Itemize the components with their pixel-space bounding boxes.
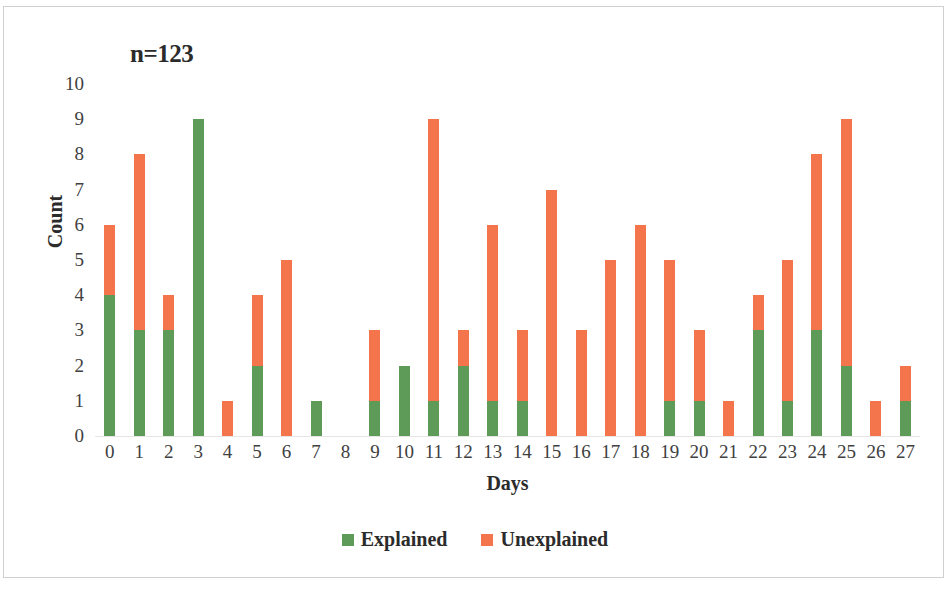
x-axis-tick-label: 25 — [832, 441, 861, 463]
y-axis-tick-label: 5 — [75, 249, 85, 271]
x-axis-tick-label: 24 — [802, 441, 831, 463]
bar-slot — [154, 84, 183, 436]
bar-segment-unexplained — [811, 154, 822, 330]
stacked-bar — [782, 260, 793, 436]
stacked-bar — [163, 295, 174, 436]
bar-segment-explained — [134, 330, 145, 436]
stacked-bar — [193, 119, 204, 436]
bar-segment-unexplained — [635, 225, 646, 436]
stacked-bar — [487, 225, 498, 436]
bar-segment-unexplained — [753, 295, 764, 330]
bar-slot — [891, 84, 920, 436]
bar-segment-explained — [694, 401, 705, 436]
bar-slot — [832, 84, 861, 436]
x-axis-tick-label: 27 — [891, 441, 920, 463]
x-axis-tick-label: 22 — [743, 441, 772, 463]
bar-slot — [449, 84, 478, 436]
x-axis-tick-label: 2 — [154, 441, 183, 463]
bar-slot — [213, 84, 242, 436]
bar-slot — [478, 84, 507, 436]
stacked-bar — [134, 154, 145, 436]
bar-segment-unexplained — [517, 330, 528, 400]
y-axis-tick-label: 7 — [75, 178, 85, 200]
bar-segment-unexplained — [694, 330, 705, 400]
bar-slot — [95, 84, 124, 436]
legend-item: Unexplained — [481, 528, 608, 551]
stacked-bar — [281, 260, 292, 436]
bar-segment-explained — [753, 330, 764, 436]
x-axis-tick-label: 4 — [213, 441, 242, 463]
x-axis-tick-label: 18 — [625, 441, 654, 463]
bar-series-container — [95, 84, 920, 436]
bar-segment-unexplained — [458, 330, 469, 365]
bar-segment-explained — [458, 366, 469, 436]
bar-segment-unexplained — [163, 295, 174, 330]
stacked-bar — [517, 330, 528, 436]
legend-swatch-explained — [342, 534, 354, 546]
bar-segment-unexplained — [841, 119, 852, 365]
x-axis-tick-label: 9 — [360, 441, 389, 463]
bar-segment-explained — [193, 119, 204, 436]
bar-segment-explained — [163, 330, 174, 436]
bar-slot — [743, 84, 772, 436]
bar-segment-explained — [664, 401, 675, 436]
bar-segment-explained — [399, 366, 410, 436]
y-axis-tick-label: 1 — [75, 389, 85, 411]
bar-slot — [684, 84, 713, 436]
x-axis-tick-label: 23 — [773, 441, 802, 463]
bar-slot — [537, 84, 566, 436]
stacked-bar — [753, 295, 764, 436]
stacked-bar — [635, 225, 646, 436]
stacked-bar — [723, 401, 734, 436]
bar-segment-unexplained — [605, 260, 616, 436]
x-axis-tick-label: 16 — [567, 441, 596, 463]
stacked-bar — [605, 260, 616, 436]
bar-slot — [773, 84, 802, 436]
legend-label: Explained — [361, 528, 448, 551]
x-axis-tick-label: 12 — [449, 441, 478, 463]
chart-legend: ExplainedUnexplained — [0, 528, 950, 551]
chart-title: n=123 — [130, 40, 193, 68]
y-axis-tick-label: 10 — [65, 73, 84, 95]
bar-segment-explained — [517, 401, 528, 436]
x-axis-tick-label: 5 — [242, 441, 271, 463]
bar-segment-unexplained — [252, 295, 263, 365]
bar-slot — [242, 84, 271, 436]
legend-label: Unexplained — [500, 528, 608, 551]
bar-segment-unexplained — [369, 330, 380, 400]
stacked-bar — [458, 330, 469, 436]
stacked-bar — [870, 401, 881, 436]
bar-slot — [183, 84, 212, 436]
y-axis-tick-label: 2 — [75, 354, 85, 376]
x-axis-tick-label: 20 — [684, 441, 713, 463]
bar-slot — [508, 84, 537, 436]
x-axis-tick-labels: 0123456789101112131415161718192021222324… — [95, 441, 920, 463]
y-axis-title: Count — [44, 162, 67, 282]
bar-segment-unexplained — [281, 260, 292, 436]
stacked-bar — [900, 366, 911, 436]
bar-slot — [390, 84, 419, 436]
x-axis-tick-label: 1 — [124, 441, 153, 463]
y-axis-tick-label: 0 — [75, 425, 85, 447]
y-axis-tick-label: 8 — [75, 143, 85, 165]
chart-page: n=123 Count 109876543210 012345678910111… — [0, 0, 950, 592]
x-axis-tick-label: 14 — [508, 441, 537, 463]
bar-segment-unexplained — [134, 154, 145, 330]
bar-slot — [301, 84, 330, 436]
bar-segment-explained — [369, 401, 380, 436]
x-axis-tick-label: 7 — [301, 441, 330, 463]
y-axis-tick-label: 3 — [75, 319, 85, 341]
x-axis-tick-label: 8 — [331, 441, 360, 463]
stacked-bar — [399, 366, 410, 436]
x-axis-tick-label: 6 — [272, 441, 301, 463]
bar-slot — [625, 84, 654, 436]
x-axis-tick-label: 15 — [537, 441, 566, 463]
bar-segment-unexplained — [664, 260, 675, 401]
stacked-bar — [841, 119, 852, 436]
x-axis-tick-label: 21 — [714, 441, 743, 463]
y-axis-tick-label: 4 — [75, 284, 85, 306]
bar-segment-explained — [252, 366, 263, 436]
x-axis-tick-label: 13 — [478, 441, 507, 463]
bar-slot — [567, 84, 596, 436]
bar-slot — [802, 84, 831, 436]
